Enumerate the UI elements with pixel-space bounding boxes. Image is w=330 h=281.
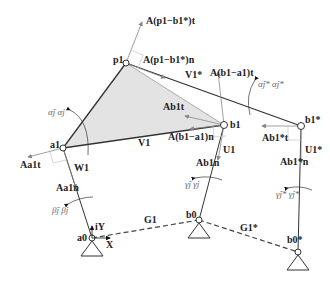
- label-A-b1-a1-n: A(b1−a1)n: [168, 132, 214, 142]
- label-alpha-star: α̈j* α̇j*: [258, 80, 284, 89]
- label-U1s: U1*: [305, 145, 322, 155]
- label-W1: W1: [74, 163, 89, 173]
- label-alpha: α̈j α̇j: [48, 108, 65, 117]
- label-a1: a1: [50, 140, 60, 150]
- label-A-p1-b1s-t: A(p1−b1*)t: [146, 16, 195, 26]
- label-gamma-star: γ̈j* γ̇j*: [276, 190, 299, 199]
- label-b0s: b0*: [287, 235, 303, 245]
- label-U1: U1: [223, 145, 235, 155]
- label-A-b1s-n: Ab1*n: [280, 157, 308, 167]
- label-A-a1-t: Aa1t: [20, 160, 41, 170]
- label-G1: G1: [144, 215, 157, 225]
- label-b0: b0: [186, 210, 197, 220]
- mechanism-diagram: A(p1−b1*)t A(p1−b1*)n p1 V1* A(b1−a1)t α…: [0, 0, 330, 281]
- label-iY: iY: [95, 222, 105, 232]
- label-b1s: b1*: [305, 115, 321, 125]
- label-A-b1-n: Ab1n: [196, 158, 219, 168]
- label-V1s: V1*: [185, 70, 202, 80]
- label-A-b1-t: Ab1t: [163, 102, 184, 112]
- label-gamma: γ̈j γ̇j: [185, 180, 199, 189]
- label-beta: β̈j β̇j: [52, 206, 68, 215]
- label-A-p1-b1s-n: A(p1−b1*)n: [143, 55, 194, 65]
- label-G1s: G1*: [240, 223, 258, 233]
- label-b1: b1: [230, 120, 241, 130]
- label-a0: a0: [77, 233, 87, 243]
- label-A-a1-n: Aa1n: [56, 183, 79, 193]
- label-A-b1-a1-t: A(b1−a1)t: [210, 68, 253, 78]
- label-V1: V1: [138, 138, 150, 148]
- label-A-b1s-t: Ab1*t: [262, 133, 288, 143]
- label-p1: p1: [113, 55, 124, 65]
- label-X: X: [106, 240, 113, 250]
